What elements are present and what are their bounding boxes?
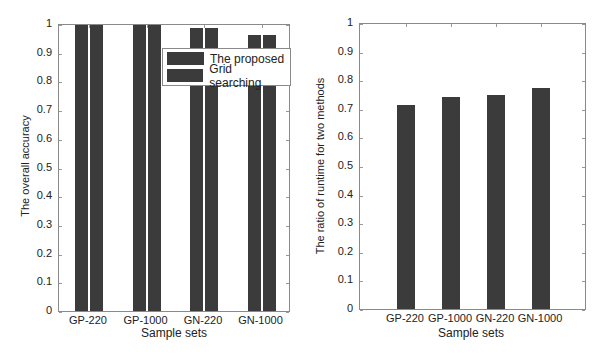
y-tick-label: 0.7	[22, 103, 52, 115]
y-tick-label: 0.1	[22, 275, 52, 287]
bar	[90, 25, 103, 311]
x-tick-mark	[406, 24, 407, 27]
y-tick-mark	[59, 283, 62, 284]
y-tick-label: 1	[22, 17, 52, 29]
y-tick-mark	[286, 140, 289, 141]
y-tick-mark	[582, 253, 585, 254]
y-tick-mark	[59, 197, 62, 198]
x-tick-label: GN-1000	[505, 312, 575, 324]
y-tick-label: 0.5	[323, 159, 353, 171]
y-tick-mark	[582, 310, 585, 311]
y-tick-mark	[360, 224, 363, 225]
y-tick-mark	[59, 111, 62, 112]
y-tick-mark	[360, 53, 363, 54]
y-tick-mark	[582, 224, 585, 225]
y-tick-mark	[59, 25, 62, 26]
y-tick-mark	[360, 24, 363, 25]
y-tick-mark	[582, 281, 585, 282]
y-tick-mark	[582, 110, 585, 111]
y-tick-mark	[360, 167, 363, 168]
y-tick-mark	[286, 283, 289, 284]
y-tick-label: 0	[323, 302, 353, 314]
y-tick-label: 1	[323, 16, 353, 28]
y-tick-label: 0.8	[22, 74, 52, 86]
y-tick-mark	[582, 196, 585, 197]
legend-label: Grid searching	[209, 62, 286, 90]
y-tick-label: 0.1	[323, 273, 353, 285]
bar	[442, 97, 460, 309]
y-tick-label: 0.6	[22, 132, 52, 144]
left-x-axis-label: Sample sets	[114, 326, 234, 340]
y-tick-label: 0.2	[323, 245, 353, 257]
y-tick-label: 0.6	[323, 130, 353, 142]
y-tick-label: 0.7	[323, 102, 353, 114]
bar	[532, 88, 550, 309]
y-tick-mark	[582, 81, 585, 82]
y-tick-mark	[582, 53, 585, 54]
y-tick-mark	[360, 196, 363, 197]
x-tick-mark	[204, 25, 205, 28]
y-tick-label: 0.9	[22, 46, 52, 58]
y-tick-mark	[360, 138, 363, 139]
y-tick-mark	[286, 111, 289, 112]
y-tick-label: 0	[22, 304, 52, 316]
y-tick-mark	[286, 169, 289, 170]
y-tick-mark	[360, 281, 363, 282]
left-legend: The proposed Grid searching	[162, 48, 291, 86]
x-tick-mark	[541, 24, 542, 27]
y-tick-mark	[59, 169, 62, 170]
y-tick-mark	[59, 82, 62, 83]
y-tick-mark	[360, 253, 363, 254]
y-tick-mark	[286, 312, 289, 313]
x-tick-mark	[451, 24, 452, 27]
y-tick-label: 0.8	[323, 73, 353, 85]
bar	[148, 25, 161, 311]
y-tick-label: 0.5	[22, 161, 52, 173]
y-tick-label: 0.3	[323, 216, 353, 228]
y-tick-mark	[286, 226, 289, 227]
y-tick-label: 0.4	[323, 188, 353, 200]
legend-item-grid-searching: Grid searching	[163, 67, 290, 84]
y-tick-mark	[59, 54, 62, 55]
y-tick-mark	[286, 25, 289, 26]
y-tick-label: 0.2	[22, 247, 52, 259]
right-x-axis-label: Sample sets	[411, 326, 531, 340]
right-plot-area	[359, 23, 586, 310]
y-tick-mark	[360, 310, 363, 311]
x-tick-label: GN-1000	[226, 314, 296, 326]
x-tick-mark	[147, 25, 148, 28]
y-tick-label: 0.4	[22, 189, 52, 201]
x-tick-mark	[89, 25, 90, 28]
bar	[133, 25, 146, 311]
y-tick-mark	[582, 24, 585, 25]
bar	[397, 105, 415, 309]
x-tick-mark	[496, 24, 497, 27]
y-tick-mark	[360, 81, 363, 82]
y-tick-mark	[360, 110, 363, 111]
legend-swatch	[167, 69, 203, 82]
bar	[75, 25, 88, 311]
y-tick-mark	[59, 226, 62, 227]
y-tick-label: 0.3	[22, 218, 52, 230]
y-tick-mark	[59, 312, 62, 313]
y-tick-mark	[59, 255, 62, 256]
y-tick-mark	[582, 138, 585, 139]
y-tick-mark	[286, 197, 289, 198]
y-tick-mark	[286, 255, 289, 256]
y-tick-label: 0.9	[323, 45, 353, 57]
legend-swatch	[167, 52, 204, 65]
bar	[487, 95, 505, 309]
y-tick-mark	[582, 167, 585, 168]
x-tick-mark	[262, 25, 263, 28]
y-tick-mark	[59, 140, 62, 141]
